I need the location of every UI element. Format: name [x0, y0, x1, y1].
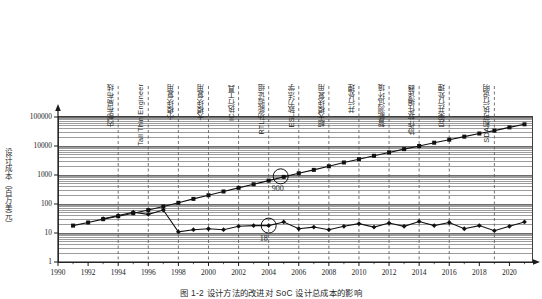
milestone-label: 协作软件编译器 — [408, 84, 415, 134]
data-point — [357, 157, 361, 161]
data-point — [191, 197, 195, 201]
data-point — [282, 175, 286, 179]
data-point — [297, 171, 301, 175]
data-point — [447, 138, 451, 142]
milestone-label: 异案并行处理 — [438, 84, 445, 127]
y-axis-title-text: 设计成本（百万美元） — [2, 148, 13, 228]
data-point — [206, 193, 210, 197]
data-point — [402, 147, 406, 151]
x-tick-label: 2012 — [375, 268, 403, 277]
milestone-label: Tall Thin Engineer — [137, 84, 144, 146]
data-point — [462, 226, 467, 231]
x-tick-label: 2010 — [345, 268, 373, 277]
data-point — [357, 221, 362, 226]
x-tick-label: 2014 — [405, 268, 433, 277]
data-point — [432, 223, 437, 228]
milestone-label: 小模块复用 — [167, 84, 174, 120]
data-point — [312, 168, 316, 172]
figure-container: 设计成本（百万美元） 110100100010000100000 1990199… — [0, 0, 542, 299]
data-point — [206, 226, 211, 231]
data-point — [372, 154, 376, 158]
data-point — [507, 224, 512, 229]
milestone-label: ESL致力法学 — [287, 84, 294, 127]
annotation-value: 900 — [272, 184, 284, 193]
data-point — [222, 189, 226, 193]
data-point — [522, 220, 527, 225]
milestone-label: 智能测试环境 — [378, 84, 385, 127]
data-point — [221, 227, 226, 232]
data-point — [176, 201, 180, 205]
milestone-label: RTL功能验证组 — [257, 84, 264, 134]
data-point — [266, 223, 271, 228]
data-point — [492, 228, 497, 233]
data-point — [387, 150, 391, 154]
data-point — [311, 225, 316, 230]
x-tick-label: 1990 — [44, 268, 72, 277]
chart-canvas — [0, 0, 542, 299]
milestone-label: 并行处理 — [348, 84, 355, 113]
data-point — [326, 227, 331, 232]
grid-lines — [58, 117, 532, 262]
y-tick-label: 100000 — [30, 112, 52, 121]
x-tick-label: 2008 — [315, 268, 343, 277]
data-point — [417, 144, 421, 148]
data-point — [146, 208, 150, 212]
figure-caption: 图 1-2 设计方法的改进对 SoC 设计总成本的影响 — [0, 286, 542, 298]
y-tick-label: 100 — [41, 199, 52, 208]
data-point — [252, 182, 256, 186]
data-point — [522, 122, 526, 126]
milestone-label: IC执行工具 — [227, 84, 234, 121]
data-point — [296, 226, 301, 231]
data-point — [387, 221, 392, 226]
y-tick-label: 1000 — [37, 170, 52, 179]
data-point — [237, 186, 241, 190]
x-tick-label: 1998 — [164, 268, 192, 277]
data-point — [432, 141, 436, 145]
x-tick-label: 2020 — [495, 268, 523, 277]
y-tick-label: 1 — [48, 257, 52, 266]
data-point — [372, 225, 377, 230]
x-tick-label: 2006 — [285, 268, 313, 277]
x-tick-label: 2016 — [435, 268, 463, 277]
data-point — [462, 135, 466, 139]
data-point — [477, 223, 482, 228]
x-tick-label: 2018 — [465, 268, 493, 277]
x-tick-label: 1994 — [104, 268, 132, 277]
milestone-label: 超大模块复用 — [318, 84, 325, 127]
data-point — [236, 224, 241, 229]
milestone-label: 内部布局布线 — [107, 84, 114, 127]
milestone-label: 大模块复用 — [197, 84, 204, 120]
data-point — [71, 224, 75, 228]
data-point — [86, 221, 90, 225]
data-point — [281, 220, 286, 225]
data-point — [402, 224, 407, 229]
y-axis-title: 设计成本（百万美元） — [2, 148, 24, 238]
axes — [55, 104, 540, 265]
y-tick-label: 10000 — [34, 141, 52, 150]
data-point — [477, 131, 481, 135]
x-tick-label: 2000 — [194, 268, 222, 277]
x-tick-label: 2002 — [225, 268, 253, 277]
x-tick-label: 1996 — [134, 268, 162, 277]
x-tick-label: 1992 — [74, 268, 102, 277]
data-point — [342, 160, 346, 164]
data-point — [327, 164, 331, 168]
data-point — [342, 224, 347, 229]
data-point — [191, 227, 196, 232]
data-point — [492, 129, 496, 133]
milestone-label: SDA和可执行说明 — [483, 84, 490, 143]
data-point — [267, 179, 271, 183]
y-tick-label: 10 — [45, 228, 52, 237]
data-point — [507, 125, 511, 129]
annotation-value: 18 — [260, 234, 268, 243]
data-point — [417, 219, 422, 224]
data-point — [251, 223, 256, 228]
x-tick-label: 2004 — [255, 268, 283, 277]
